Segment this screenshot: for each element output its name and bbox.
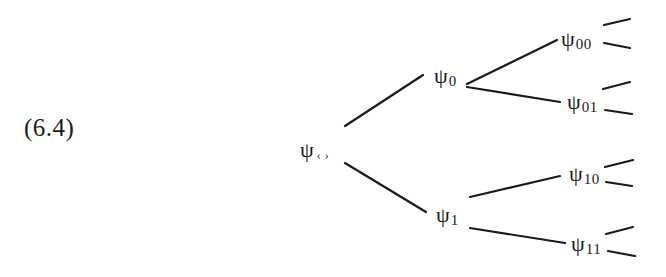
stub-10-down: [606, 182, 632, 186]
edge-1-10: [470, 176, 560, 197]
edge-0-00: [467, 40, 557, 84]
node-1-symbol: ψ: [436, 202, 450, 227]
node-1: ψ1: [436, 204, 459, 228]
node-10-subscript: 10: [584, 171, 600, 187]
stub-01-down: [605, 110, 632, 114]
node-0-subscript: 0: [449, 73, 457, 89]
node-root-symbol: ψ: [300, 137, 314, 162]
node-1-subscript: 1: [451, 212, 459, 228]
stub-00-down: [604, 43, 630, 48]
node-10-symbol: ψ: [569, 161, 583, 186]
tree-stubs: [603, 19, 635, 256]
edge-root-1: [345, 163, 426, 212]
node-01-symbol: ψ: [567, 89, 581, 114]
stub-01-up: [603, 82, 630, 89]
node-11-symbol: ψ: [571, 231, 585, 256]
node-root-subscript: ‹ ›: [317, 148, 330, 162]
edge-0-01: [467, 87, 560, 102]
node-01-subscript: 01: [582, 99, 598, 115]
edge-1-11: [470, 228, 565, 243]
edge-root-0: [345, 75, 423, 126]
node-00: ψ00: [561, 28, 592, 52]
node-11: ψ11: [571, 233, 601, 257]
stub-11-down: [608, 251, 635, 256]
stub-00-up: [604, 19, 630, 25]
node-00-subscript: 00: [576, 36, 592, 52]
node-0-symbol: ψ: [434, 63, 448, 88]
node-11-subscript: 11: [586, 241, 601, 257]
stub-11-up: [606, 227, 633, 234]
node-10: ψ10: [569, 163, 600, 187]
stub-10-up: [605, 160, 633, 167]
node-root: ψ‹ ›: [300, 139, 329, 161]
node-00-symbol: ψ: [561, 26, 575, 51]
node-01: ψ01: [567, 91, 598, 115]
node-0: ψ0: [434, 65, 457, 89]
